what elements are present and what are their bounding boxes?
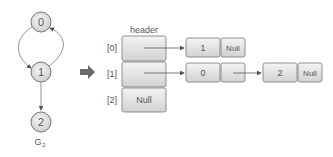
edge-1-to-0	[49, 28, 63, 66]
node-link: Null	[226, 44, 240, 53]
list-node: 2 Null	[263, 63, 322, 82]
header-cell-1	[122, 62, 166, 87]
list-node: 0	[186, 63, 245, 82]
edge-0-to-1	[18, 27, 32, 68]
right-arrow-icon	[80, 65, 95, 79]
node-label: 0	[38, 16, 44, 28]
graph-name: G	[34, 137, 41, 147]
node-data: 2	[277, 68, 282, 78]
graph-node-2: 2	[31, 112, 51, 132]
node-label: 2	[38, 116, 44, 128]
node-label: 1	[38, 66, 44, 78]
graph-g2: 0 1 2 G 2	[18, 12, 63, 148]
header-cell-0	[122, 36, 166, 61]
adjacency-list: header [0] [1] [2] Null 1 Null 0	[107, 25, 322, 112]
row-index: [0]	[107, 43, 117, 53]
header-null: Null	[136, 95, 152, 105]
graph-subscript: 2	[42, 142, 46, 148]
node-data: 0	[200, 68, 205, 78]
node-link: Null	[303, 69, 317, 78]
row-index: [2]	[107, 95, 117, 105]
row-index: [1]	[107, 69, 117, 79]
graph-node-0: 0	[31, 12, 51, 32]
list-node: 1 Null	[186, 38, 245, 57]
graph-node-1: 1	[31, 62, 51, 82]
header-label: header	[130, 25, 158, 35]
adjacency-list-diagram: 0 1 2 G 2 header [0] [1] [2] Null	[0, 0, 333, 157]
node-data: 1	[200, 43, 205, 53]
